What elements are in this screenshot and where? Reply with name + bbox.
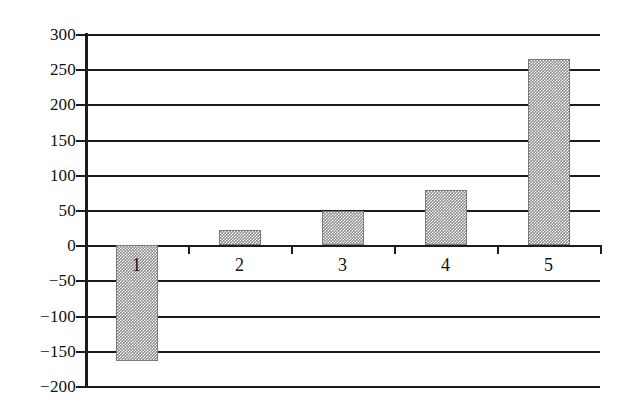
gridline-minus-50	[85, 280, 600, 282]
ytick-minus-50	[76, 280, 85, 282]
x-axis-ticks	[85, 245, 600, 255]
gridline-300	[85, 34, 600, 36]
y-axis-label-minus-50: −50	[6, 272, 76, 289]
y-axis-label-minus-100: −100	[6, 308, 76, 325]
x-tick-boundary-1	[188, 245, 190, 254]
x-tick-boundary-2	[291, 245, 293, 254]
gridline-250	[85, 69, 600, 71]
ytick-200	[76, 104, 85, 106]
gridline-minus-200	[85, 386, 600, 388]
x-axis-label-3: 3	[291, 256, 394, 274]
ytick-minus-200	[76, 386, 85, 388]
y-axis-labels: 300 250 200 150 100 50 0 −50 −100 −150 −…	[0, 34, 76, 386]
y-axis-label-minus-150: −150	[6, 343, 76, 360]
y-axis-label-50: 50	[6, 202, 76, 219]
y-axis-label-100: 100	[6, 167, 76, 184]
bar-category-5	[528, 59, 570, 246]
x-tick-boundary-4	[497, 245, 499, 254]
ytick-100	[76, 175, 85, 177]
gridline-minus-100	[85, 316, 600, 318]
y-axis-label-300: 300	[6, 26, 76, 43]
gridline-200	[85, 104, 600, 106]
x-axis-labels: 1 2 3 4 5	[85, 256, 600, 280]
y-axis-line	[85, 33, 88, 388]
ytick-0	[76, 245, 85, 247]
bar-category-2	[219, 230, 261, 246]
ytick-minus-150	[76, 351, 85, 353]
x-axis-label-1: 1	[85, 256, 188, 274]
x-axis-label-2: 2	[188, 256, 291, 274]
y-axis-label-150: 150	[6, 132, 76, 149]
ytick-minus-100	[76, 316, 85, 318]
x-axis-label-5: 5	[497, 256, 600, 274]
ytick-150	[76, 140, 85, 142]
x-tick-boundary-3	[394, 245, 396, 254]
gridline-minus-150	[85, 351, 600, 353]
ytick-50	[76, 210, 85, 212]
x-tick-boundary-5	[600, 245, 602, 254]
y-axis-label-0: 0	[6, 237, 76, 254]
bar-category-3	[322, 211, 364, 246]
x-axis-label-4: 4	[394, 256, 497, 274]
gridline-150	[85, 140, 600, 142]
bar-chart: 300 250 200 150 100 50 0 −50 −100 −150 −…	[0, 0, 629, 415]
bar-category-4	[425, 190, 467, 246]
y-axis-label-minus-200: −200	[6, 378, 76, 395]
gridline-100	[85, 175, 600, 177]
plot-area	[85, 34, 600, 386]
y-axis-label-200: 200	[6, 96, 76, 113]
ytick-250	[76, 69, 85, 71]
ytick-300	[76, 34, 85, 36]
y-axis-label-250: 250	[6, 61, 76, 78]
